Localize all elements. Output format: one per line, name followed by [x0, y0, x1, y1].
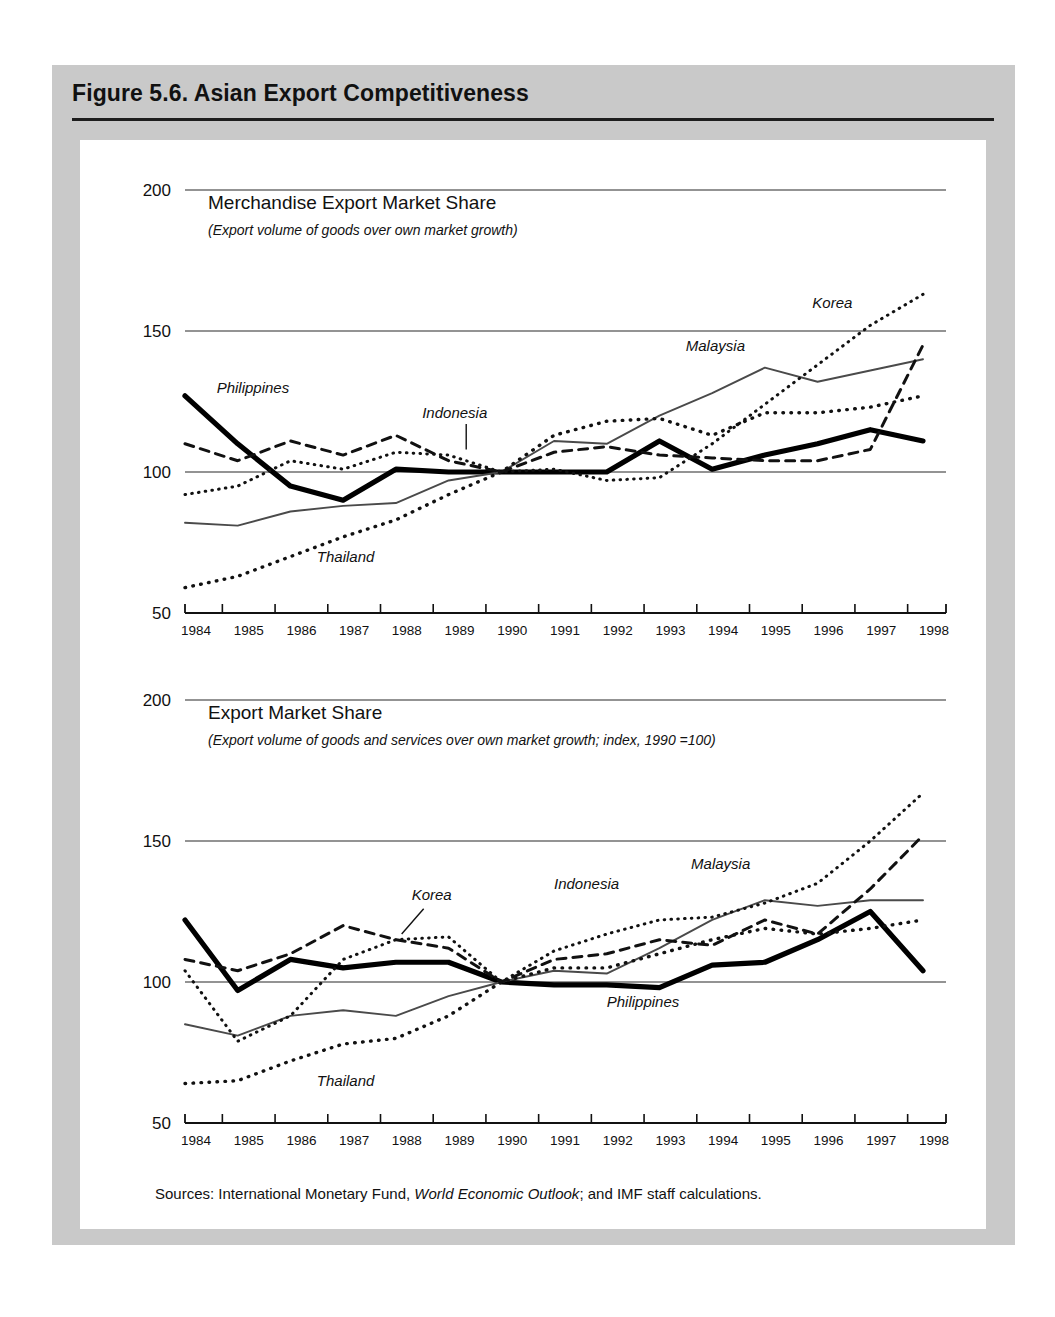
- x-axis-tick-label: 1996: [814, 623, 844, 638]
- y-axis-tick-label: 50: [152, 604, 171, 623]
- x-axis-tick-label: 1995: [761, 1133, 791, 1148]
- chart-title-lower: Export Market Share: [208, 702, 382, 724]
- x-axis-tick-label: 1992: [603, 1133, 633, 1148]
- sources-prefix: Sources: International Monetary Fund,: [155, 1185, 414, 1202]
- x-axis-tick-label: 1987: [339, 1133, 369, 1148]
- x-axis-tick-label: 1984: [181, 623, 212, 638]
- x-axis-tick-label: 1985: [234, 1133, 264, 1148]
- y-axis-tick-label: 150: [143, 832, 171, 851]
- x-axis-tick-label: 1995: [761, 623, 791, 638]
- series-label-korea: Korea: [412, 886, 452, 903]
- y-axis-tick-label: 100: [143, 973, 171, 992]
- series-line-korea: [185, 294, 923, 494]
- x-axis-tick-label: 1988: [392, 623, 422, 638]
- x-axis-tick-label: 1994: [708, 1133, 739, 1148]
- chart-subtitle-upper: (Export volume of goods over own market …: [208, 222, 518, 238]
- series-label-thailand: Thailand: [317, 548, 375, 565]
- x-axis-tick-label: 1985: [234, 623, 264, 638]
- x-axis-tick-label: 1997: [866, 623, 896, 638]
- series-label-philippines: Philippines: [217, 379, 290, 396]
- y-axis-tick-label: 50: [152, 1114, 171, 1133]
- chart-canvas-upper: 5010015020019841985198619871988198919901…: [80, 140, 986, 660]
- title-divider: [72, 118, 994, 121]
- y-axis-tick-label: 150: [143, 322, 171, 341]
- chart-canvas-lower: 5010015020019841985198619871988198919901…: [80, 650, 986, 1170]
- x-axis-tick-label: 1987: [339, 623, 369, 638]
- x-axis-tick-label: 1998: [919, 623, 949, 638]
- x-axis-tick-label: 1990: [497, 623, 527, 638]
- series-line-thailand: [185, 396, 923, 588]
- x-axis-tick-label: 1996: [814, 1133, 844, 1148]
- chart-export-market-share: 5010015020019841985198619871988198919901…: [80, 650, 986, 1170]
- chart-subtitle-lower: (Export volume of goods and services ove…: [208, 732, 716, 748]
- series-line-indonesia: [185, 345, 923, 472]
- sources-note: Sources: International Monetary Fund, Wo…: [155, 1185, 762, 1202]
- series-label-indonesia: Indonesia: [554, 875, 619, 892]
- x-axis-tick-label: 1993: [655, 1133, 685, 1148]
- x-axis-tick-label: 1984: [181, 1133, 212, 1148]
- series-label-philippines: Philippines: [607, 993, 680, 1010]
- chart-title-upper: Merchandise Export Market Share: [208, 192, 496, 214]
- x-axis-tick-label: 1986: [286, 1133, 316, 1148]
- x-axis-tick-label: 1989: [445, 1133, 475, 1148]
- y-axis-tick-label: 200: [143, 181, 171, 200]
- series-label-malaysia: Malaysia: [686, 337, 745, 354]
- series-label-thailand: Thailand: [317, 1072, 375, 1089]
- chart-merchandise-export-market-share: 5010015020019841985198619871988198919901…: [80, 140, 986, 660]
- x-axis-tick-label: 1986: [286, 623, 316, 638]
- series-label-malaysia: Malaysia: [691, 855, 750, 872]
- x-axis-tick-label: 1988: [392, 1133, 422, 1148]
- x-axis-tick-label: 1991: [550, 1133, 580, 1148]
- y-axis-tick-label: 100: [143, 463, 171, 482]
- x-axis-tick-label: 1989: [445, 623, 475, 638]
- series-line-korea: [185, 793, 923, 1041]
- x-axis-tick-label: 1997: [866, 1133, 896, 1148]
- page-title: Figure 5.6. Asian Export Competitiveness: [72, 80, 529, 107]
- x-axis-tick-label: 1992: [603, 623, 633, 638]
- series-line-philippines: [185, 396, 923, 500]
- x-axis-tick-label: 1994: [708, 623, 739, 638]
- y-axis-tick-label: 200: [143, 691, 171, 710]
- figure-page: Figure 5.6. Asian Export Competitiveness…: [0, 0, 1055, 1317]
- x-axis-tick-label: 1991: [550, 623, 580, 638]
- sources-suffix: ; and IMF staff calculations.: [579, 1185, 761, 1202]
- x-axis-tick-label: 1990: [497, 1133, 527, 1148]
- sources-publication: World Economic Outlook: [414, 1185, 579, 1202]
- x-axis-tick-label: 1998: [919, 1133, 949, 1148]
- series-label-indonesia: Indonesia: [422, 404, 487, 421]
- charts-container: 5010015020019841985198619871988198919901…: [80, 140, 986, 1229]
- x-axis-tick-label: 1993: [655, 623, 685, 638]
- series-label-korea: Korea: [812, 294, 852, 311]
